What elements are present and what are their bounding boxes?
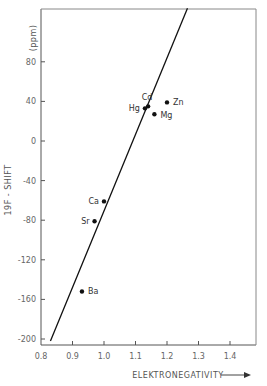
data-point-cd: Cd bbox=[142, 93, 153, 108]
x-tick-label: 0.8 bbox=[35, 352, 48, 361]
y-axis-title: 19F - SHIFT bbox=[4, 164, 13, 215]
x-axis: 0.80.91.01.11.21.31.4 bbox=[35, 341, 237, 361]
point-label: Mg bbox=[160, 111, 172, 120]
y-tick-label: -120 bbox=[18, 256, 36, 265]
x-tick-label: 0.9 bbox=[66, 352, 79, 361]
y-axis-unit: (ppm) bbox=[29, 25, 38, 52]
point-label: Hg bbox=[129, 104, 140, 113]
x-tick-label: 1.4 bbox=[224, 352, 237, 361]
data-point-sr: Sr bbox=[81, 217, 97, 226]
x-axis-title: ELEKTRONEGATIVITY bbox=[132, 371, 223, 380]
x-tick-label: 1.1 bbox=[129, 352, 142, 361]
point-label: Sr bbox=[81, 217, 90, 226]
y-tick-label: -160 bbox=[18, 295, 36, 304]
fit-line bbox=[50, 8, 187, 341]
y-tick-label: -80 bbox=[23, 216, 36, 225]
data-points: ZnCdHgMgCaSrBa bbox=[80, 93, 184, 296]
data-point-ba: Ba bbox=[80, 287, 99, 296]
y-tick-label: 0 bbox=[31, 137, 36, 146]
point-label: Ca bbox=[89, 197, 100, 206]
x-tick-label: 1.3 bbox=[192, 352, 205, 361]
chart: 80400-40-80-120-160-200 0.80.91.01.11.21… bbox=[0, 0, 267, 386]
point-label: Zn bbox=[173, 98, 184, 107]
data-point-mg: Mg bbox=[152, 111, 172, 120]
arrow-right-icon bbox=[221, 372, 251, 378]
y-tick-label: 40 bbox=[26, 97, 36, 106]
y-tick-label: -200 bbox=[18, 335, 36, 344]
point-label: Cd bbox=[142, 93, 153, 102]
x-tick-label: 1.0 bbox=[98, 352, 111, 361]
y-tick-label: -40 bbox=[23, 177, 36, 186]
y-tick-label: 80 bbox=[26, 58, 36, 67]
plot-frame bbox=[41, 9, 256, 345]
x-tick-label: 1.2 bbox=[161, 352, 174, 361]
data-point-ca: Ca bbox=[89, 197, 107, 206]
point-label: Ba bbox=[88, 287, 98, 296]
data-point-zn: Zn bbox=[165, 98, 184, 107]
